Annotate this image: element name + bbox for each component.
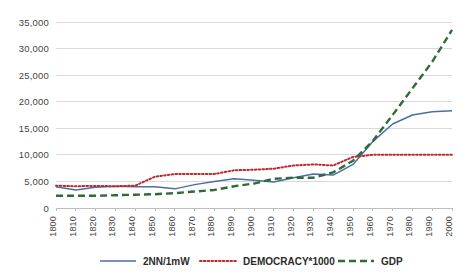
y-axis-tick-label: 35,000	[19, 17, 49, 28]
x-axis-tick-label: 2000	[444, 216, 454, 237]
x-axis-tick-label: 1910	[266, 216, 276, 237]
legend-label-1[interactable]: 2NN/1mW	[143, 256, 190, 267]
x-axis-tick-label: 1950	[345, 216, 355, 237]
x-axis-tick-label: 1850	[147, 216, 157, 237]
x-axis-tick-label: 1870	[187, 216, 197, 237]
line-chart: 05,00010,00015,00020,00025,00030,00035,0…	[0, 0, 461, 278]
x-axis-ticks	[56, 208, 452, 211]
x-axis-tick-label: 1920	[286, 216, 296, 237]
y-axis-tick-label: 5,000	[24, 176, 49, 187]
y-axis-tick-label: 20,000	[19, 96, 49, 107]
x-axis-tick-label: 1840	[127, 216, 137, 237]
y-axis-tick-label: 25,000	[19, 70, 49, 81]
x-axis-tick-label: 1830	[107, 216, 117, 237]
x-axis-tick-label: 1880	[206, 216, 216, 237]
x-axis-tick-label: 1970	[385, 216, 395, 237]
legend-label-2[interactable]: DEMOCRACY*1000	[243, 256, 335, 267]
y-axis-tick-label: 0	[44, 203, 49, 214]
x-axis-tick-label: 1800	[48, 216, 58, 237]
x-axis-tick-label: 1980	[404, 216, 414, 237]
x-axis-tick-label: 1930	[305, 216, 315, 237]
y-axis-tick-label: 30,000	[19, 43, 49, 54]
y-axis-tick-label: 10,000	[19, 149, 49, 160]
x-axis-tick-label: 1820	[88, 216, 98, 237]
x-axis-tick-label: 1890	[226, 216, 236, 237]
x-axis-tick-label: 1900	[246, 216, 256, 237]
x-axis-tick-label: 1810	[68, 216, 78, 237]
x-axis-tick-label: 1940	[325, 216, 335, 237]
x-axis-tick-label: 1860	[167, 216, 177, 237]
x-axis-tick-labels: 1800181018201830184018501860187018801890…	[48, 216, 454, 237]
y-axis-tick-label: 15,000	[19, 123, 49, 134]
x-axis-tick-label: 1960	[365, 216, 375, 237]
legend-label-3[interactable]: GDP	[381, 256, 403, 267]
x-axis-tick-label: 1990	[424, 216, 434, 237]
chart-canvas: 05,00010,00015,00020,00025,00030,00035,0…	[0, 0, 461, 278]
